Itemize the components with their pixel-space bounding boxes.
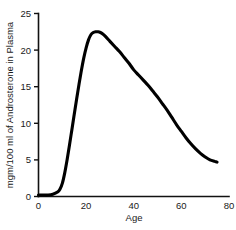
y-tick-label: 15 (20, 81, 31, 92)
x-tick-label: 80 (224, 200, 235, 211)
chart-figure: 0510152025 020406080 Age mgm/100 ml of A… (0, 0, 236, 230)
y-tick-label: 20 (20, 45, 31, 56)
x-tick-label: 0 (36, 200, 41, 211)
chart-background (0, 0, 236, 230)
y-tick-label: 5 (26, 154, 31, 165)
x-tick-label: 20 (81, 200, 92, 211)
y-tick-label: 10 (20, 118, 31, 129)
y-tick-label: 25 (20, 8, 31, 19)
x-tick-label: 60 (176, 200, 187, 211)
androsterone-vs-age-line-chart: 0510152025 020406080 Age mgm/100 ml of A… (0, 0, 236, 230)
y-axis-title: mgm/100 ml of Androsterone in Plasma (4, 21, 15, 188)
x-tick-label: 40 (128, 200, 139, 211)
x-axis-title: Age (126, 212, 143, 223)
y-tick-label: 0 (26, 191, 31, 202)
